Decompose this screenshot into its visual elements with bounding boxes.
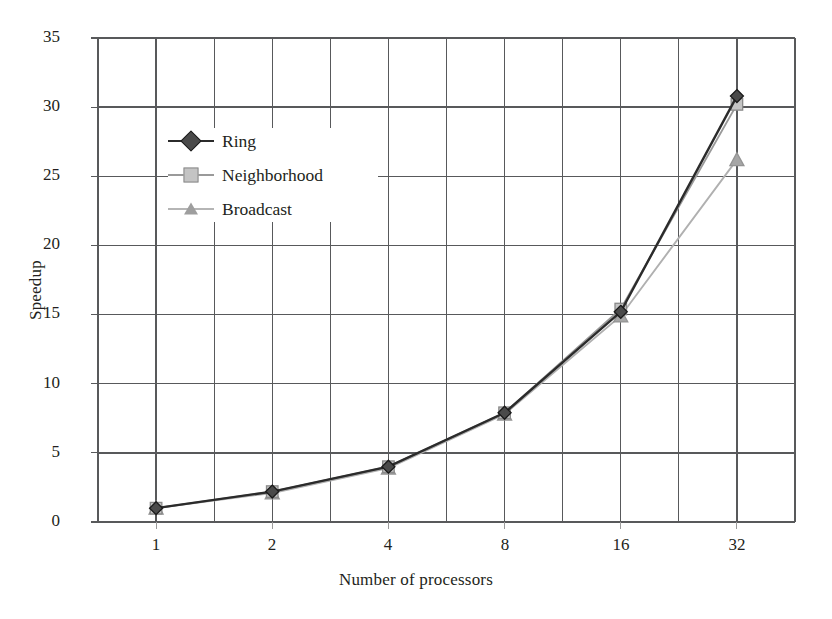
legend-item-neighborhood: Neighborhood (168, 162, 323, 188)
diamond-marker-icon (168, 132, 214, 150)
chart-plot-area (0, 0, 832, 619)
x-tick-label: 8 (481, 535, 529, 555)
y-tick-label: 5 (20, 442, 60, 462)
square-marker-icon (168, 166, 214, 184)
y-tick-label: 30 (20, 96, 60, 116)
legend-item-ring: Ring (168, 128, 256, 154)
chart-legend: Ring Neighborhood Broadcast (168, 128, 378, 222)
y-tick-label: 25 (20, 165, 60, 185)
x-tick-label: 4 (364, 535, 412, 555)
y-tick-label: 35 (20, 27, 60, 47)
x-tick-label: 1 (132, 535, 180, 555)
triangle-marker-icon (168, 200, 214, 218)
legend-label: Neighborhood (222, 165, 323, 186)
y-tick-label: 10 (20, 373, 60, 393)
triangle-data-marker (730, 153, 744, 166)
legend-item-broadcast: Broadcast (168, 196, 292, 222)
grid-lines (98, 38, 795, 522)
y-axis-title: Speedup (26, 210, 46, 370)
legend-label: Ring (222, 131, 256, 152)
x-tick-label: 2 (248, 535, 296, 555)
legend-label: Broadcast (222, 199, 292, 220)
x-axis-title: Number of processors (0, 570, 832, 590)
y-tick-label: 0 (20, 511, 60, 531)
chart-container: 35 30 25 20 15 10 5 0 1 2 4 8 16 32 Numb… (0, 0, 832, 619)
x-tick-label: 16 (597, 535, 645, 555)
x-tick-label: 32 (713, 535, 761, 555)
